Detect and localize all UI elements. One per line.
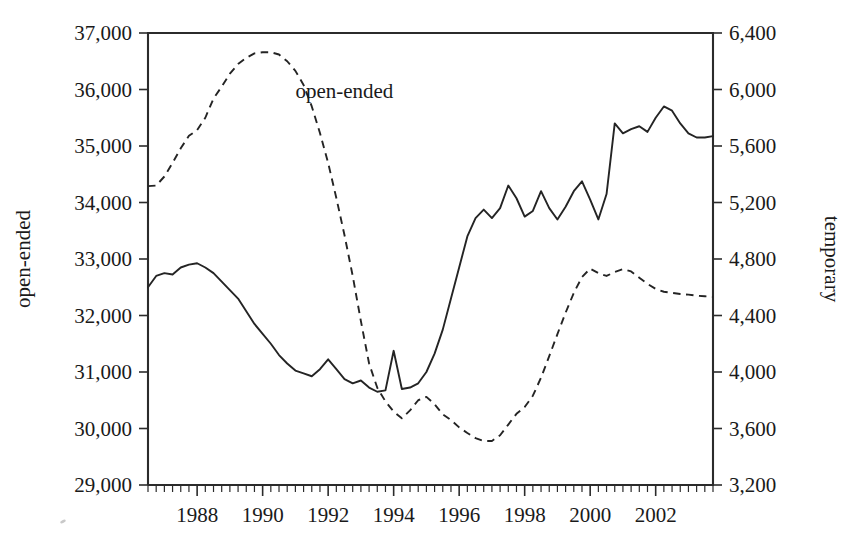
left-axis-tick-label: 34,000: [74, 191, 132, 215]
chart-figure: 29,00030,00031,00032,00033,00034,00035,0…: [0, 0, 852, 553]
right-axis-tick-label: 4,400: [729, 304, 776, 328]
left-axis-tick-label: 29,000: [74, 473, 132, 497]
series-annotations: open-endedtemporary: [210, 0, 394, 103]
left-axis-tick-label: 33,000: [74, 247, 132, 271]
series-open-ended-line: [148, 52, 713, 441]
left-axis-tick-label: 30,000: [74, 417, 132, 441]
right-axis-tick-label: 3,600: [729, 417, 776, 441]
right-axis-tick-label: 5,200: [729, 191, 776, 215]
x-axis-tick-label: 1994: [373, 503, 416, 527]
x-axis-tick-label: 1996: [438, 503, 480, 527]
line-chart: 29,00030,00031,00032,00033,00034,00035,0…: [0, 0, 852, 553]
x-axis-tick-label: 1988: [176, 503, 218, 527]
x-axis-tick-label: 1998: [504, 503, 546, 527]
left-axis-tick-label: 32,000: [74, 304, 132, 328]
right-axis-tick-label: 6,400: [729, 21, 776, 45]
right-axis-tick-label: 5,600: [729, 134, 776, 158]
series-annotation-open-ended: open-ended: [295, 79, 393, 103]
x-axis-tick-label: 2000: [569, 503, 611, 527]
left-axis-tick-label: 31,000: [74, 360, 132, 384]
x-axis-tick-label: 1992: [307, 503, 349, 527]
series-temporary-line: [148, 106, 713, 391]
plot-frame: [148, 33, 713, 485]
right-axis-tick-label: 4,800: [729, 247, 776, 271]
y2-axis-title: temporary: [820, 216, 844, 303]
x-axis-tick-label: 2002: [635, 503, 677, 527]
left-axis-tick-label: 35,000: [74, 134, 132, 158]
left-axis: 29,00030,00031,00032,00033,00034,00035,0…: [74, 21, 148, 497]
right-axis: 3,2003,6004,0004,4004,8005,2005,6006,000…: [713, 21, 776, 497]
x-axis-tick-label: 1990: [242, 503, 284, 527]
left-axis-tick-label: 36,000: [74, 78, 132, 102]
series-group: [148, 52, 713, 441]
left-axis-tick-label: 37,000: [74, 21, 132, 45]
bottom-axis: 19881990199219941996199820002002: [148, 485, 713, 527]
y-axis-title: open-ended: [11, 210, 35, 308]
right-axis-tick-label: 4,000: [729, 360, 776, 384]
right-axis-tick-label: 3,200: [729, 473, 776, 497]
right-axis-tick-label: 6,000: [729, 78, 776, 102]
